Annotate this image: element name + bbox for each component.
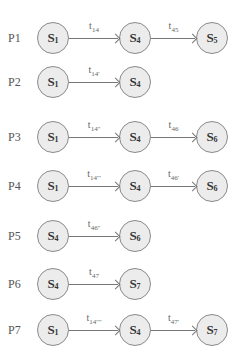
state-node-name: S	[47, 276, 54, 292]
state-node-name: S	[47, 322, 54, 338]
transition-arrow	[69, 284, 118, 285]
state-node: S5	[196, 22, 228, 54]
state-node-name: S	[206, 30, 213, 46]
state-node-index: 1	[55, 80, 59, 89]
state-node-index: 4	[137, 36, 141, 45]
state-node-index: 4	[137, 328, 141, 337]
transition-label: t14'	[69, 64, 119, 78]
state-node-index: 1	[55, 36, 59, 45]
path-label: P6	[8, 277, 21, 291]
transition-index: 14'''	[90, 174, 101, 182]
state-node-name: S	[47, 228, 54, 244]
transition-label: t14	[69, 20, 119, 34]
transition-arrow	[69, 38, 118, 39]
state-node: S6	[196, 170, 228, 202]
state-node-index: 1	[55, 135, 59, 144]
state-node: S6	[119, 220, 151, 252]
state-node-name: S	[129, 30, 136, 46]
state-node: S1	[37, 170, 69, 202]
state-node: S1	[37, 121, 69, 153]
state-node-index: 7	[214, 328, 218, 337]
state-node: S7	[119, 268, 151, 300]
state-node: S1	[37, 314, 69, 346]
transition-index: 14''	[91, 125, 101, 133]
transition-index: 45	[171, 26, 178, 34]
transition-index: 14	[92, 26, 99, 34]
state-node: S4	[37, 220, 69, 252]
transition-index: 14''''	[89, 318, 101, 326]
transition-index: 46	[171, 125, 178, 133]
state-node-name: S	[206, 129, 213, 145]
state-node: S4	[119, 22, 151, 54]
state-node: S4	[119, 66, 151, 98]
state-node-name: S	[47, 129, 54, 145]
transition-index: 46''	[91, 224, 101, 232]
state-node: S7	[196, 314, 228, 346]
path-label: P1	[8, 31, 21, 45]
transition-arrow	[151, 38, 195, 39]
state-node: S6	[196, 121, 228, 153]
transition-index: 47	[92, 272, 99, 280]
state-node-index: 4	[137, 135, 141, 144]
state-node-name: S	[129, 276, 136, 292]
state-node-name: S	[129, 178, 136, 194]
transition-arrow	[69, 82, 118, 83]
path-label: P4	[8, 179, 21, 193]
state-node-index: 7	[137, 282, 141, 291]
state-node-name: S	[47, 178, 54, 194]
state-node-name: S	[47, 74, 54, 90]
transition-label: t14''''	[69, 312, 119, 326]
state-node-index: 6	[214, 135, 218, 144]
transition-arrow	[69, 236, 118, 237]
state-path-diagram: P1S1S4S5t14t45P2S1S4t14'P3S1S4S6t14''t46…	[0, 0, 243, 363]
state-node: S1	[37, 22, 69, 54]
state-node-name: S	[129, 228, 136, 244]
transition-arrow	[69, 330, 118, 331]
transition-label: t45	[149, 20, 199, 34]
state-node-index: 6	[137, 234, 141, 243]
path-label: P2	[8, 75, 21, 89]
state-node-name: S	[129, 322, 136, 338]
state-node: S1	[37, 66, 69, 98]
state-node: S4	[37, 268, 69, 300]
transition-arrow	[69, 137, 118, 138]
state-node-name: S	[206, 178, 213, 194]
state-node-index: 1	[55, 328, 59, 337]
state-node-index: 4	[55, 282, 59, 291]
transition-index: 14'	[91, 70, 99, 78]
transition-label: t47	[69, 266, 119, 280]
state-node-name: S	[129, 129, 136, 145]
transition-label: t46	[149, 119, 199, 133]
state-node-index: 1	[55, 184, 59, 193]
path-label: P3	[8, 130, 21, 144]
transition-arrow	[69, 186, 118, 187]
transition-label: t14'''	[69, 168, 119, 182]
state-node-index: 4	[137, 80, 141, 89]
state-node: S4	[119, 314, 151, 346]
state-node-index: 4	[55, 234, 59, 243]
path-label: P7	[8, 323, 21, 337]
transition-label: t47'	[149, 312, 199, 326]
state-node: S4	[119, 121, 151, 153]
state-node-index: 4	[137, 184, 141, 193]
state-node: S4	[119, 170, 151, 202]
transition-arrow	[151, 186, 195, 187]
state-node-index: 6	[214, 184, 218, 193]
transition-label: t46''	[69, 218, 119, 232]
state-node-name: S	[47, 30, 54, 46]
state-node-name: S	[206, 322, 213, 338]
state-node-name: S	[129, 74, 136, 90]
transition-index: 47'	[171, 318, 179, 326]
transition-arrow	[151, 330, 195, 331]
state-node-index: 5	[214, 36, 218, 45]
transition-label: t46'	[149, 168, 199, 182]
transition-label: t14''	[69, 119, 119, 133]
path-label: P5	[8, 229, 21, 243]
transition-index: 46'	[171, 174, 179, 182]
transition-arrow	[151, 137, 195, 138]
